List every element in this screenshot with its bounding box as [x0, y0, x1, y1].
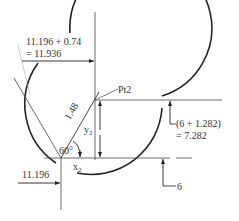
y2-label: y2: [84, 124, 93, 137]
bottom-dimension-label: 6: [177, 181, 182, 192]
angle-arc: [73, 141, 80, 157]
circle-arc: [70, 0, 212, 96]
geometry-diagram: [0, 0, 239, 221]
left-dimension-label: 11.196: [22, 169, 49, 180]
right-dimension-label-line1: (6 + 1.282): [176, 118, 221, 129]
pt2-leader: [95, 89, 118, 100]
top-dimension-label-line2: = 11.936: [26, 48, 61, 59]
angle-label: 60°: [59, 145, 73, 156]
right-dimension-label-line2: = 7.282: [176, 130, 207, 141]
x2-label: x2: [73, 161, 82, 174]
circle-arc-left: [25, 63, 56, 163]
point-label: Pt2: [118, 84, 131, 95]
circle-arc-right: [77, 108, 162, 174]
top-dimension-label-line1: 11.196 + 0.74: [26, 36, 81, 47]
